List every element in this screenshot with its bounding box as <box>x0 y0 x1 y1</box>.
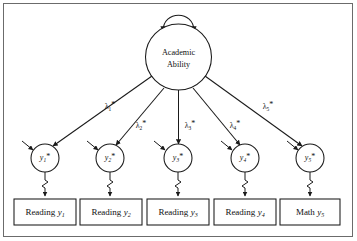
lambda-2-label: λ2* <box>136 119 147 131</box>
indicator-label-5: Math y5 <box>296 207 324 218</box>
latent-factor-label-line1: Academic <box>162 48 196 57</box>
threshold-link-4 <box>242 172 248 196</box>
loading-path-1 <box>53 76 152 146</box>
indicator-label-3: Reading y3 <box>158 207 197 218</box>
threshold-link-3 <box>175 172 181 196</box>
lambda-1-label: λ1* <box>105 100 116 112</box>
indicator-label-1: Reading y1 <box>25 207 64 218</box>
residual-arrow-3 <box>154 141 165 150</box>
latent-factor-label-line2: Ability <box>167 60 191 69</box>
diagram-page: Academic Ability λ1* λ2* λ3* λ4* λ5* <box>0 0 357 241</box>
indicator-label-4: Reading y4 <box>225 207 264 218</box>
lambda-4-label: λ4* <box>230 119 241 131</box>
loading-path-5 <box>205 76 302 146</box>
latent-factor-ellipse <box>146 24 212 90</box>
threshold-link-5 <box>307 172 313 196</box>
residual-arrow-2 <box>87 141 98 150</box>
indicator-label-2: Reading y2 <box>91 207 130 218</box>
residual-arrow-4 <box>221 141 232 150</box>
threshold-link-2 <box>107 172 113 196</box>
path-diagram-canvas: Academic Ability λ1* λ2* λ3* λ4* λ5* <box>0 0 357 241</box>
lambda-5-label: λ5* <box>263 100 274 112</box>
residual-arrow-1 <box>22 141 33 150</box>
threshold-link-1 <box>42 172 48 196</box>
lambda-3-label: λ3* <box>185 119 196 131</box>
